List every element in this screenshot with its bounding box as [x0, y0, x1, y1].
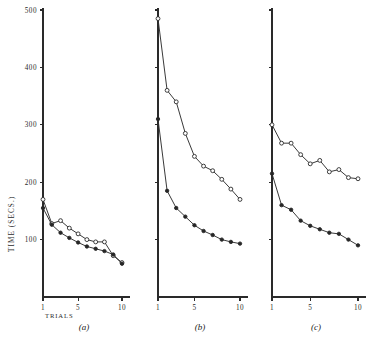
x-axis-tick-label: 10 — [118, 304, 126, 312]
series-line-open-circle — [158, 19, 240, 200]
data-point-open-circle — [67, 226, 71, 230]
data-point-open-circle — [94, 240, 98, 244]
y-axis-title: TIME (SECS.) — [8, 196, 16, 252]
y-axis-tick-label: 200 — [25, 179, 37, 187]
series-line-filled-circle — [158, 119, 240, 244]
x-axis-tick-label: 1 — [270, 304, 274, 312]
data-point-filled-circle — [68, 236, 71, 239]
x-axis-tick-label: 5 — [308, 304, 312, 312]
data-point-open-circle — [102, 240, 106, 244]
data-point-filled-circle — [289, 208, 292, 211]
three-panel-line-chart: TIME (SECS.) 5004003002001001510(a)TRIAL… — [0, 0, 373, 337]
data-point-open-circle — [174, 100, 178, 104]
data-point-filled-circle — [85, 245, 88, 248]
panel-c: 1510(c) — [269, 8, 367, 332]
data-point-filled-circle — [156, 117, 159, 120]
data-point-filled-circle — [211, 233, 214, 236]
data-point-open-circle — [202, 164, 206, 168]
x-axis-tick-label: 10 — [236, 304, 244, 312]
data-point-filled-circle — [76, 241, 79, 244]
data-point-open-circle — [220, 177, 224, 181]
data-point-filled-circle — [94, 247, 97, 250]
x-axis-tick-label: 10 — [354, 304, 362, 312]
data-point-filled-circle — [165, 189, 168, 192]
panel-caption: (b) — [195, 322, 206, 332]
data-point-filled-circle — [202, 229, 205, 232]
y-axis-title-text: TIME (SECS.) — [8, 196, 16, 252]
data-point-open-circle — [299, 153, 303, 157]
data-point-filled-circle — [120, 262, 123, 265]
data-point-open-circle — [280, 141, 284, 145]
data-point-filled-circle — [112, 253, 115, 256]
panel-a: 5004003002001001510(a)TRIALS — [25, 7, 130, 332]
x-axis-tick-label: 5 — [76, 304, 80, 312]
data-point-filled-circle — [59, 231, 62, 234]
data-point-filled-circle — [229, 240, 232, 243]
data-point-filled-circle — [347, 238, 350, 241]
data-point-filled-circle — [50, 223, 53, 226]
data-point-filled-circle — [356, 244, 359, 247]
data-point-open-circle — [337, 168, 341, 172]
data-point-filled-circle — [103, 249, 106, 252]
data-point-open-circle — [229, 187, 233, 191]
data-point-open-circle — [192, 154, 196, 158]
x-axis-tick-label: 5 — [192, 304, 196, 312]
x-axis-tick-label: 1 — [41, 304, 45, 312]
data-point-open-circle — [41, 197, 45, 201]
data-point-open-circle — [327, 170, 331, 174]
data-point-open-circle — [356, 177, 360, 181]
data-point-open-circle — [59, 219, 63, 223]
data-point-open-circle — [270, 123, 274, 127]
data-point-filled-circle — [220, 238, 223, 241]
data-point-filled-circle — [238, 242, 241, 245]
data-point-filled-circle — [41, 206, 44, 209]
data-point-open-circle — [165, 88, 169, 92]
data-point-open-circle — [85, 238, 89, 242]
series-line-open-circle — [272, 125, 358, 179]
x-axis-title: TRIALS — [45, 312, 73, 319]
data-point-open-circle — [156, 17, 160, 21]
data-point-filled-circle — [309, 224, 312, 227]
data-point-filled-circle — [184, 215, 187, 218]
data-point-open-circle — [346, 176, 350, 180]
y-axis-tick-label: 100 — [25, 236, 37, 244]
data-point-open-circle — [318, 158, 322, 162]
y-axis-tick-label: 300 — [25, 121, 37, 129]
data-point-filled-circle — [299, 219, 302, 222]
panel-b: 1510(b) — [155, 8, 249, 332]
data-point-filled-circle — [270, 172, 273, 175]
x-axis-tick-label: 1 — [156, 304, 160, 312]
data-point-open-circle — [183, 131, 187, 135]
y-axis-tick-label: 500 — [25, 7, 37, 15]
data-point-filled-circle — [337, 232, 340, 235]
series-line-filled-circle — [272, 174, 358, 246]
figure-container: TIME (SECS.) 5004003002001001510(a)TRIAL… — [0, 0, 373, 337]
data-point-filled-circle — [175, 206, 178, 209]
data-point-filled-circle — [193, 224, 196, 227]
data-point-open-circle — [211, 169, 215, 173]
data-point-open-circle — [76, 232, 80, 236]
panel-caption: (c) — [311, 322, 321, 332]
data-point-filled-circle — [280, 203, 283, 206]
data-point-open-circle — [238, 197, 242, 201]
y-axis-tick-label: 400 — [25, 64, 37, 72]
panel-caption: (a) — [79, 322, 90, 332]
data-point-filled-circle — [328, 231, 331, 234]
data-point-open-circle — [289, 141, 293, 145]
data-point-open-circle — [308, 162, 312, 166]
data-point-filled-circle — [318, 228, 321, 231]
series-line-filled-circle — [43, 208, 122, 264]
